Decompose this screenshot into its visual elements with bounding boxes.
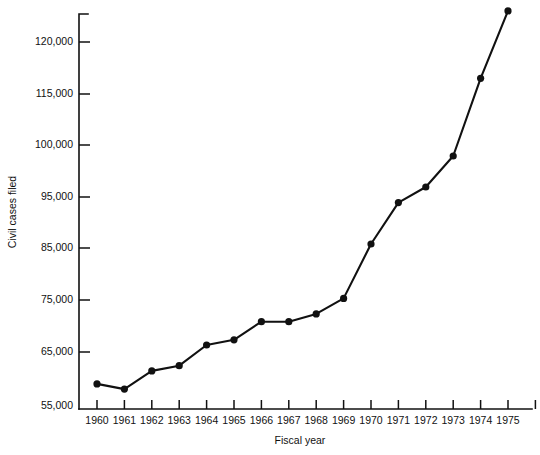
data-point-marker	[367, 240, 374, 247]
data-point-marker	[230, 336, 237, 343]
x-tick-label: 1961	[113, 414, 137, 426]
data-point-marker	[450, 152, 457, 159]
data-point-marker	[477, 75, 484, 82]
x-tick-label: 1969	[332, 414, 356, 426]
x-tick-label: 1965	[222, 414, 246, 426]
y-tick-label: 55,000	[41, 399, 73, 411]
x-tick-label: 1968	[305, 414, 329, 426]
x-tick-label: 1963	[168, 414, 192, 426]
x-tick-label: 1975	[496, 414, 520, 426]
x-tick-label: 1972	[414, 414, 438, 426]
x-tick-label: 1966	[250, 414, 274, 426]
x-tick-label: 1973	[442, 414, 466, 426]
y-axis-title: Civil cases filed	[6, 176, 18, 249]
x-tick-label: 1970	[359, 414, 383, 426]
data-point-marker	[340, 295, 347, 302]
x-tick-label: 1974	[469, 414, 493, 426]
civil-cases-filed-line-chart: 120,000 115,000 100,000 95,000 85,000 75…	[0, 0, 540, 455]
y-tick-label: 95,000	[41, 190, 73, 202]
y-tick-label: 85,000	[41, 241, 73, 253]
y-tick-label: 100,000	[35, 138, 73, 150]
y-tick-label: 75,000	[41, 293, 73, 305]
data-point-marker	[203, 341, 210, 348]
data-point-marker	[504, 7, 511, 14]
y-tick-label: 65,000	[41, 345, 73, 357]
x-tick-label: 1967	[277, 414, 301, 426]
x-tick-label: 1964	[195, 414, 219, 426]
x-axis-title: Fiscal year	[275, 434, 326, 446]
x-tick-label: 1960	[85, 414, 109, 426]
data-point-marker	[422, 183, 429, 190]
y-tick-label: 115,000	[36, 87, 73, 99]
data-point-marker	[395, 199, 402, 206]
x-tick-label: 1962	[140, 414, 164, 426]
data-point-marker	[121, 386, 128, 393]
data-point-marker	[285, 318, 292, 325]
chart-background	[0, 0, 540, 455]
data-point-marker	[176, 362, 183, 369]
data-point-marker	[313, 310, 320, 317]
data-point-marker	[93, 380, 100, 387]
data-point-marker	[258, 318, 265, 325]
chart-container: 120,000 115,000 100,000 95,000 85,000 75…	[0, 0, 540, 455]
y-tick-label: 120,000	[35, 35, 73, 47]
data-point-marker	[148, 367, 155, 374]
x-tick-label: 1971	[387, 414, 411, 426]
